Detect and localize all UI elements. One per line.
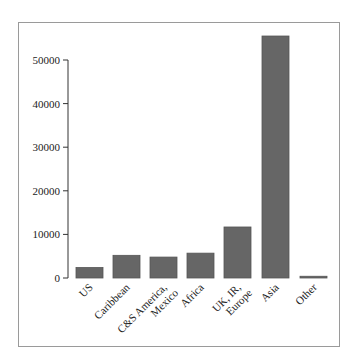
y-tick-label: 0 bbox=[55, 272, 61, 284]
bar bbox=[262, 36, 289, 278]
y-tick-label: 20000 bbox=[33, 185, 61, 197]
bar bbox=[150, 257, 177, 278]
y-tick-label: 50000 bbox=[33, 54, 61, 66]
bar bbox=[187, 253, 214, 278]
bar bbox=[224, 227, 251, 278]
bar bbox=[113, 255, 140, 278]
x-tick-label: Asia bbox=[258, 281, 281, 304]
x-tick-label: US bbox=[76, 281, 94, 299]
bar-chart: 01000020000300004000050000USCaribbeanC&S… bbox=[0, 0, 358, 364]
x-tick-label: Other bbox=[293, 281, 319, 307]
x-tick-label: UK, IR,Europe bbox=[210, 278, 255, 323]
y-tick-label: 10000 bbox=[33, 228, 61, 240]
bar bbox=[76, 268, 103, 278]
bar bbox=[300, 276, 327, 278]
y-tick-label: 40000 bbox=[33, 98, 61, 110]
x-tick-label: Africa bbox=[178, 281, 206, 309]
y-tick-label: 30000 bbox=[33, 141, 61, 153]
